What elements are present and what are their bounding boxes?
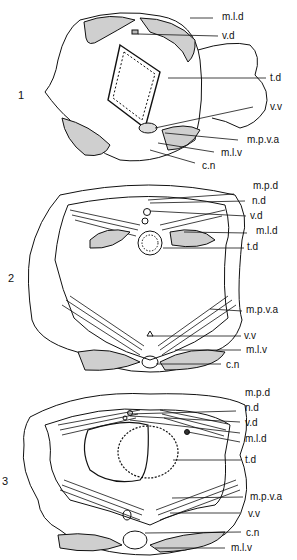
label-c-n: c.n xyxy=(246,528,259,538)
panel-2-number: 2 xyxy=(8,273,14,284)
label-m-l-d: m.l.d xyxy=(245,434,267,444)
label-n-d: n.d xyxy=(245,403,259,413)
label-m-l-v: m.l.v xyxy=(231,543,252,553)
label-m-l-v: m.l.v xyxy=(221,148,242,158)
label-m-p-d: m.p.d xyxy=(253,181,278,191)
figure-drawing xyxy=(0,0,297,560)
panel-3-section xyxy=(23,393,246,555)
label-m-l-d: m.l.d xyxy=(222,12,244,22)
panel-2-section xyxy=(28,185,244,372)
label-m-l-d: m.l.d xyxy=(256,226,278,236)
label-v-v: v.v xyxy=(244,331,256,341)
label-v-v: v.v xyxy=(248,509,260,519)
label-m-p-v-a: m.p.v.a xyxy=(250,492,282,502)
label-m-l-v: m.l.v xyxy=(246,345,267,355)
label-n-d: n.d xyxy=(252,196,266,206)
label-v-d: v.d xyxy=(250,211,263,221)
label-v-d: v.d xyxy=(245,418,258,428)
label-t-d: t.d xyxy=(247,242,258,252)
panel-1-number: 1 xyxy=(18,90,24,101)
leader-lines xyxy=(128,18,266,548)
label-v-v: v.v xyxy=(270,102,282,112)
label-t-d: t.d xyxy=(270,73,281,83)
label-v-d: v.d xyxy=(222,31,235,41)
label-m-p-v-a: m.p.v.a xyxy=(246,305,278,315)
label-c-n: c.n xyxy=(226,360,239,370)
label-c-n: c.n xyxy=(202,161,215,171)
label-t-d: t.d xyxy=(245,455,256,465)
label-m-p-v-a: m.p.v.a xyxy=(247,135,279,145)
panel-3-number: 3 xyxy=(2,476,8,487)
label-m-p-d: m.p.d xyxy=(245,388,270,398)
